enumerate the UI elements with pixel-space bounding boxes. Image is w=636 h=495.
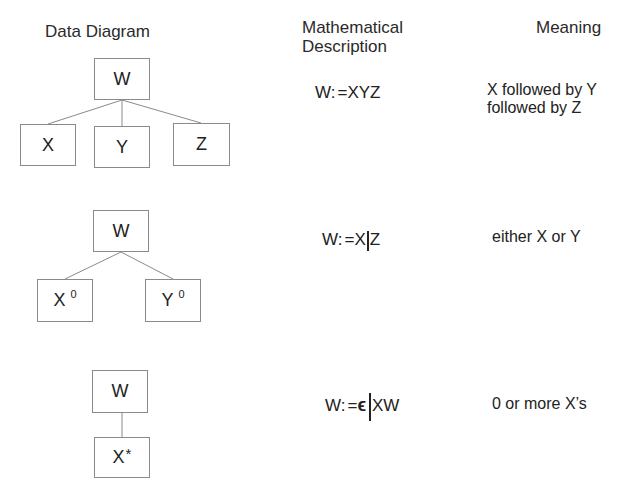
- diagram-iteration-child-x-box: X*: [94, 437, 150, 478]
- header-math-line2: Description: [302, 37, 403, 56]
- epsilon-symbol: ϵ: [357, 395, 366, 415]
- box-label: X: [53, 290, 65, 311]
- connector-w-x: [48, 100, 122, 124]
- meaning-iteration: 0 or more X’s: [492, 395, 587, 413]
- diagram-sequence-child-y-box: Y: [94, 126, 150, 168]
- selection-marker: 0: [70, 288, 76, 300]
- iteration-marker: *: [126, 445, 132, 462]
- diagram-selection-child-x-box: X0: [37, 279, 93, 322]
- diagram-selection-child-y-box: Y0: [145, 279, 201, 322]
- box-label: W: [112, 381, 129, 402]
- box-label: W: [113, 221, 130, 242]
- formula-left: X: [354, 230, 365, 249]
- meaning-line1: X followed by Y: [487, 81, 597, 99]
- formula-selection: W:=XZ: [322, 230, 380, 251]
- diagram-selection-parent-box: W: [93, 210, 149, 252]
- formula-lhs: W:: [325, 396, 345, 415]
- header-data-diagram: Data Diagram: [45, 22, 150, 41]
- box-label: W: [114, 69, 131, 90]
- formula-sequence: W:=XYZ: [315, 83, 380, 102]
- box-label: Z: [196, 134, 207, 155]
- formula-iteration: W:=ϵXW: [325, 393, 399, 421]
- diagram-sequence-child-z-box: Z: [173, 123, 230, 166]
- connector-w-z: [122, 100, 201, 123]
- alternation-bar: [367, 231, 369, 251]
- formula-op: =: [347, 396, 357, 415]
- meaning-selection: either X or Y: [492, 228, 581, 246]
- formula-op: =: [337, 83, 347, 102]
- formula-lhs: W:: [322, 230, 342, 249]
- meaning-sequence: X followed by Y followed by Z: [487, 81, 597, 117]
- meaning-line1: 0 or more X’s: [492, 395, 587, 413]
- box-label: X: [113, 447, 125, 468]
- selection-marker: 0: [178, 288, 184, 300]
- header-math-line1: Mathematical: [302, 18, 403, 37]
- box-label: Y: [161, 290, 173, 311]
- box-label: Y: [116, 137, 128, 158]
- header-meaning: Meaning: [536, 18, 601, 37]
- meaning-line1: either X or Y: [492, 228, 581, 246]
- connector-w-x0: [65, 252, 121, 279]
- diagram-sequence-parent-box: W: [94, 58, 150, 100]
- formula-lhs: W:: [315, 83, 335, 102]
- diagram-iteration-parent-box: W: [92, 370, 148, 413]
- formula-rhs: XYZ: [347, 83, 380, 102]
- box-label: X: [42, 135, 54, 156]
- formula-op: =: [344, 230, 354, 249]
- header-mathematical-description: Mathematical Description: [302, 18, 403, 56]
- diagram-sequence-child-x-box: X: [20, 124, 76, 166]
- meaning-line2: followed by Z: [487, 99, 597, 117]
- formula-right: XW: [372, 396, 399, 415]
- connector-w-y0: [121, 252, 173, 279]
- formula-right: Z: [370, 230, 380, 249]
- alternation-bar: [369, 393, 371, 421]
